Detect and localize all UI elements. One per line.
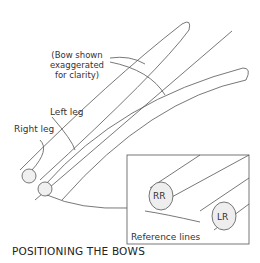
left-rod-end — [38, 182, 52, 196]
rod-right-label: RR — [153, 191, 166, 201]
reference-lines-label: Reference lines — [131, 232, 200, 242]
rod-left-label: LR — [217, 212, 228, 222]
inset-box — [127, 155, 249, 244]
exaggeration-note: (Bow shown exaggerated for clarity) — [50, 50, 104, 80]
left-leg-label: Left leg — [50, 107, 84, 117]
diagram-title: POSITIONING THE BOWS — [12, 245, 145, 257]
right-leg-label: Right leg — [14, 124, 54, 134]
right-rod-end — [22, 169, 36, 183]
